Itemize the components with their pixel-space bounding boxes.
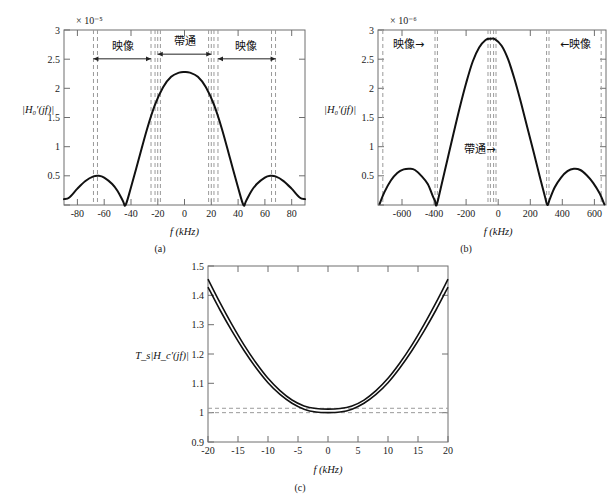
y-axis-labels-a: 0.5 1 1.5 2 2.5 3 — [48, 25, 61, 181]
panel-b-plot: 0.5 1 1.5 2 2.5 3 × 10⁻⁶ |H₀′(jf)| — [324, 15, 606, 238]
y-axis-ticks-c — [208, 266, 448, 442]
x-tick-label: -40 — [124, 208, 137, 219]
x-tick-label: -10 — [261, 445, 274, 456]
region-label: 帶通→ — [464, 143, 495, 156]
y-tick-label: 1 — [55, 141, 60, 152]
panel-c-plot: 0.9 1 1.1 1.2 1.3 1.4 1.5 T_s|H_c′(jf)| — [135, 261, 453, 476]
x-axis-labels-c: -20 -15 -10 -5 0 5 10 15 20 — [201, 445, 453, 456]
y-tick-label: 1.5 — [192, 261, 205, 272]
x-axis-ticks-b — [402, 30, 594, 205]
x-axis-ticks-c — [208, 266, 448, 442]
y-tick-label: 1.1 — [192, 378, 205, 389]
y-axis-labels-c: 0.9 1 1.1 1.2 1.3 1.4 1.5 — [192, 261, 205, 448]
x-tick-label: 400 — [555, 208, 570, 219]
dashed-lines-b — [383, 30, 601, 205]
x-tick-label: 0 — [326, 445, 331, 456]
y-tick-label: 2.5 — [48, 54, 61, 65]
y-axis-title-b: |H₀′(jf)| — [324, 104, 356, 116]
y-tick-label: 1.5 — [362, 112, 375, 123]
y-tick-label: 1 — [199, 407, 204, 418]
x-tick-label: 20 — [206, 208, 216, 219]
x-tick-label: 0 — [496, 208, 501, 219]
x-axis-title-c: f (kHz) — [314, 464, 343, 476]
x-tick-label: -60 — [98, 208, 111, 219]
response-curve-c-upper — [208, 279, 448, 409]
y-axis-ticks-b — [378, 30, 606, 205]
plot-frame-a — [64, 30, 305, 205]
x-tick-label: 10 — [383, 445, 393, 456]
y-tick-label: 1.4 — [192, 290, 205, 301]
y-tick-label: 1 — [369, 141, 374, 152]
y-tick-label: 2 — [369, 83, 374, 94]
region-label: 映像→ — [393, 38, 424, 51]
panel-b: 0.5 1 1.5 2 2.5 3 × 10⁻⁶ |H₀′(jf)| — [316, 0, 616, 250]
x-tick-label: 200 — [523, 208, 538, 219]
panel-a: 0.5 1 1.5 2 2.5 3 × 10⁻⁵ |H₀′(jf)| — [0, 0, 320, 250]
plot-frame-c — [208, 266, 448, 442]
panel-a-svg: 0.5 1 1.5 2 2.5 3 × 10⁻⁵ |H₀′(jf)| — [0, 0, 320, 250]
panel-caption-c: (c) — [294, 482, 305, 493]
x-tick-label: -400 — [425, 208, 443, 219]
y-axis-labels-b: 0.5 1 1.5 2 2.5 3 — [362, 25, 375, 181]
x-axis-title-a: f (kHz) — [170, 226, 199, 238]
x-axis-ticks-a — [77, 30, 291, 205]
y-scale-exponent-b: × 10⁻⁶ — [390, 15, 417, 26]
x-tick-label: -600 — [393, 208, 411, 219]
y-tick-label: 1.3 — [192, 319, 205, 330]
panel-c: 0.9 1 1.1 1.2 1.3 1.4 1.5 T_s|H_c′(jf)| — [130, 252, 470, 492]
x-tick-label: -200 — [457, 208, 475, 219]
annotations-b: 映像→帶通→←映像 — [393, 38, 591, 156]
x-tick-label: 80 — [287, 208, 297, 219]
x-tick-label: 15 — [413, 445, 423, 456]
x-tick-label: -20 — [151, 208, 164, 219]
y-axis-title-c: T_s|H_c′(jf)| — [135, 350, 189, 362]
y-axis-ticks-a — [64, 30, 305, 205]
x-tick-label: 0 — [182, 208, 187, 219]
y-axis-title-a: |H₀′(jf)| — [22, 104, 54, 116]
response-curve-c-lower — [208, 287, 448, 413]
x-tick-label: 20 — [443, 445, 453, 456]
dashed-lines-a — [93, 30, 275, 205]
region-label: 帶通 — [174, 35, 196, 48]
x-tick-label: 40 — [233, 208, 243, 219]
x-axis-labels-a: -80 -60 -40 -20 0 20 40 60 80 — [71, 208, 297, 219]
x-axis-labels-b: -600 -400 -200 0 200 400 600 — [393, 208, 602, 219]
y-tick-label: 0.5 — [48, 170, 61, 181]
annotations-a: 映像帶通映像 — [93, 35, 275, 61]
region-label: 映像 — [112, 40, 134, 53]
x-tick-label: 60 — [260, 208, 270, 219]
y-tick-label: 0.5 — [362, 170, 375, 181]
y-tick-label: 2.5 — [362, 54, 375, 65]
x-tick-label: 5 — [356, 445, 361, 456]
response-curve-b — [380, 39, 605, 206]
region-label: ←映像 — [560, 38, 591, 51]
x-tick-label: -15 — [231, 445, 244, 456]
x-tick-label: -5 — [294, 445, 302, 456]
x-axis-title-b: f (kHz) — [484, 226, 513, 238]
y-scale-exponent-a: × 10⁻⁵ — [76, 15, 103, 26]
x-tick-label: -20 — [201, 445, 214, 456]
x-tick-label: -80 — [71, 208, 84, 219]
y-tick-label: 3 — [55, 25, 60, 36]
panel-c-svg: 0.9 1 1.1 1.2 1.3 1.4 1.5 T_s|H_c′(jf)| — [130, 252, 470, 492]
y-tick-label: 3 — [369, 25, 374, 36]
x-tick-label: 600 — [587, 208, 602, 219]
y-tick-label: 2 — [55, 83, 60, 94]
y-tick-label: 1.2 — [192, 349, 205, 360]
response-curve-a — [64, 72, 305, 206]
panel-a-plot: 0.5 1 1.5 2 2.5 3 × 10⁻⁵ |H₀′(jf)| — [22, 15, 305, 238]
panel-b-svg: 0.5 1 1.5 2 2.5 3 × 10⁻⁶ |H₀′(jf)| — [316, 0, 616, 250]
region-label: 映像 — [235, 40, 257, 53]
plot-frame-b — [378, 30, 606, 205]
